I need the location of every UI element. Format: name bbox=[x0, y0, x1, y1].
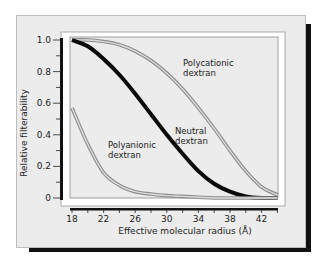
x-axis-ticks: 18222630343842 bbox=[66, 210, 277, 224]
annotation-line: dextran bbox=[108, 150, 156, 160]
x-tick-label: 22 bbox=[98, 214, 109, 224]
y-tick-label: 0 bbox=[45, 193, 51, 203]
y-tick-label: 0.2 bbox=[37, 161, 51, 171]
annotation-line: Polyanionic bbox=[108, 140, 156, 150]
y-tick-label: 0.6 bbox=[37, 98, 52, 108]
y-tick-label: 1.0 bbox=[37, 35, 52, 45]
annotation-line: Polycationic bbox=[183, 58, 234, 68]
x-tick-label: 38 bbox=[224, 214, 236, 224]
y-axis-ticks: 00.20.40.60.81.0 bbox=[37, 35, 61, 203]
annotation-neutral: Neutral dextran bbox=[175, 126, 208, 146]
y-tick-label: 0.4 bbox=[37, 130, 52, 140]
x-tick-label: 42 bbox=[256, 214, 267, 224]
x-axis-label: Effective molecular radius (Å) bbox=[90, 226, 280, 236]
chart-canvas: 00.20.40.60.81.0 18222630343842 bbox=[0, 0, 326, 263]
annotation-polyanionic: Polyanionic dextran bbox=[108, 140, 156, 160]
annotation-line: Neutral bbox=[175, 126, 208, 136]
y-axis-label: Relative filterability bbox=[19, 78, 29, 188]
y-tick-label: 0.8 bbox=[37, 67, 52, 77]
x-tick-label: 34 bbox=[193, 214, 205, 224]
annotation-polycationic: Polycationic dextran bbox=[183, 58, 234, 78]
x-axis-line bbox=[70, 208, 278, 211]
annotation-line: dextran bbox=[175, 136, 208, 146]
annotation-line: dextran bbox=[183, 68, 234, 78]
x-tick-label: 30 bbox=[161, 214, 173, 224]
x-tick-label: 26 bbox=[129, 214, 141, 224]
x-tick-label: 18 bbox=[66, 214, 78, 224]
